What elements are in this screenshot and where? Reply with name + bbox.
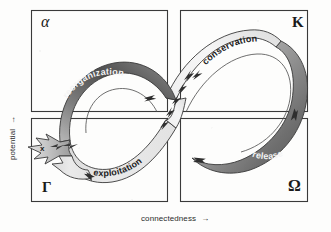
- r-quadrant-label: Γ: [42, 180, 52, 195]
- omega-quadrant-label: Ω: [288, 178, 301, 194]
- flow-arrowhead-alpha: [192, 70, 202, 80]
- kappa-quadrant-label: K: [292, 15, 304, 30]
- left-loop-inner-contour: [86, 89, 157, 133]
- alpha-quadrant-label: α: [41, 14, 49, 30]
- exit-arrow-label: x: [40, 144, 45, 153]
- flow-arrowhead-reorg: [144, 95, 156, 101]
- x-axis-label: connectedness→: [141, 214, 208, 223]
- y-axis-label-text: potential: [8, 129, 17, 160]
- label-exploitation: exploitation: [93, 156, 144, 179]
- x-axis-label-text: connectedness: [141, 214, 196, 223]
- reorganization-ribbon-segment: [60, 62, 176, 142]
- adaptive-cycle-figure: reorganization exploitation conservation…: [0, 0, 331, 232]
- y-axis-label: potential→: [8, 109, 17, 169]
- x-axis-arrow-icon: →: [201, 214, 208, 223]
- flow-arrowheads: [84, 70, 298, 181]
- y-axis-arrow-icon: →: [8, 117, 17, 124]
- diagram-canvas: reorganization exploitation conservation…: [0, 0, 331, 232]
